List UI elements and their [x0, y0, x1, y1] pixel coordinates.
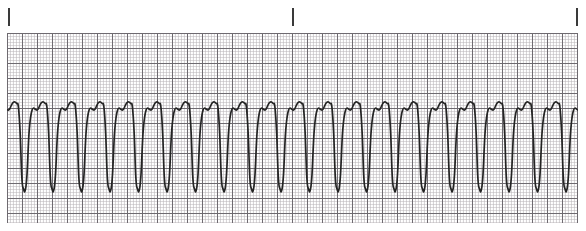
ecg-trace — [7, 33, 578, 223]
interval-tick-1 — [8, 8, 10, 26]
ecg-strip-page — [0, 0, 586, 231]
interval-tick-row — [0, 0, 586, 33]
interval-tick-2 — [292, 8, 294, 26]
ecg-waveform-path — [7, 102, 578, 192]
interval-tick-3 — [576, 8, 578, 26]
ecg-graph-paper — [7, 33, 578, 223]
